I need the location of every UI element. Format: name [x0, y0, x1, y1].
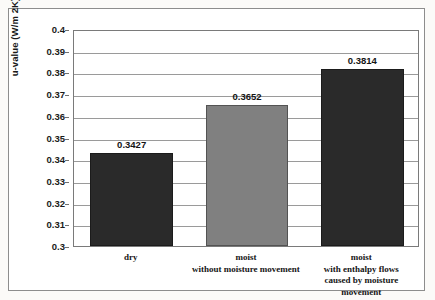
x-axis-category-line: moist: [296, 252, 427, 264]
y-axis-tick-mark: [65, 30, 69, 31]
x-axis-category-line: movement: [296, 287, 427, 299]
y-axis-tick-mark: [65, 204, 69, 205]
y-axis-tick-label: 0.38: [23, 67, 65, 78]
x-axis-category-line: with enthalpy flows: [296, 264, 427, 276]
bar[interactable]: 0.3427: [90, 153, 173, 246]
y-axis-tick-mark: [65, 139, 69, 140]
y-axis-tick-label: 0.33: [23, 176, 65, 187]
y-axis-tick-label: 0.3: [23, 241, 65, 252]
bar[interactable]: 0.3652: [206, 105, 289, 247]
x-axis-category-labels: drymoistwithout moisture movementmoistwi…: [73, 252, 419, 300]
y-axis-tick-mark: [65, 160, 69, 161]
plot-area: 0.34270.36520.3814: [73, 30, 419, 247]
x-axis-category-line: without moisture movement: [180, 264, 311, 276]
y-axis-tick-label: 0.32: [23, 198, 65, 209]
y-axis-tick-mark: [65, 182, 69, 183]
x-axis-category-label: moistwithout moisture movement: [180, 252, 311, 275]
y-axis-tick-mark: [65, 95, 69, 96]
y-axis-tick-mark: [65, 73, 69, 74]
x-axis-category-line: dry: [65, 252, 196, 264]
x-axis-category-line: moist: [180, 252, 311, 264]
bar[interactable]: 0.3814: [321, 69, 404, 246]
bar-fill: [90, 153, 173, 246]
bar-value-label: 0.3427: [72, 139, 191, 150]
y-axis-tick-label: 0.39: [23, 46, 65, 57]
y-axis-tick-mark: [65, 225, 69, 226]
y-axis-tick-mark: [65, 52, 69, 53]
x-axis-category-line: caused by moisture: [296, 275, 427, 287]
bar-value-label: 0.3814: [303, 55, 422, 66]
bar-value-label: 0.3652: [188, 91, 307, 102]
y-axis-tick-label: 0.35: [23, 133, 65, 144]
y-axis-tick-mark: [65, 247, 69, 248]
bar-fill: [206, 105, 289, 247]
y-axis-tick-label: 0.37: [23, 89, 65, 100]
y-axis-tick-label: 0.34: [23, 154, 65, 165]
y-axis-tick-label: 0.4: [23, 24, 65, 35]
bar-fill: [321, 69, 404, 246]
bar-series: 0.34270.36520.3814: [74, 31, 418, 246]
chart-outer-frame: u-value (W/m 2K) 0.40.390.380.370.360.35…: [8, 8, 425, 291]
y-axis-tick-labels: 0.40.390.380.370.360.350.340.330.320.310…: [27, 30, 69, 247]
y-axis-tick-label: 0.36: [23, 111, 65, 122]
x-axis-category-label: moistwith enthalpy flowscaused by moistu…: [296, 252, 427, 298]
figure-container: u-value (W/m 2K) 0.40.390.380.370.360.35…: [0, 0, 435, 300]
y-axis-tick-label: 0.31: [23, 219, 65, 230]
x-axis-category-label: dry: [65, 252, 196, 264]
y-axis-tick-mark: [65, 117, 69, 118]
